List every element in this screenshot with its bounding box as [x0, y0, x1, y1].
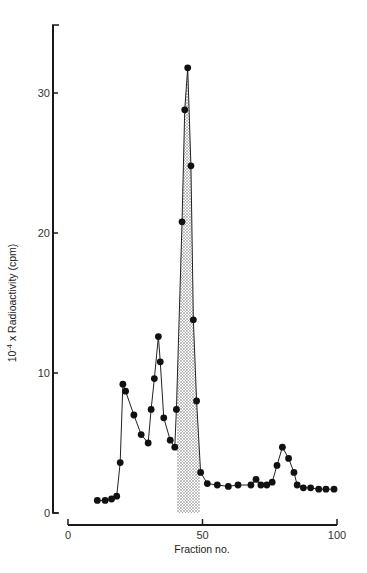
x-tick-label: 50 [196, 529, 208, 541]
data-point [257, 482, 264, 489]
data-point [167, 437, 174, 444]
data-point [190, 316, 197, 323]
data-point [294, 482, 301, 489]
data-point [248, 482, 255, 489]
data-series-radioactivity [94, 64, 338, 503]
x-axis-title: Fraction no. [174, 543, 229, 555]
data-point [274, 462, 281, 469]
data-point [145, 440, 152, 447]
data-point [279, 444, 286, 451]
data-point [160, 414, 167, 421]
data-point [113, 493, 120, 500]
y-tick-label: 0 [44, 507, 50, 519]
data-point [269, 479, 276, 486]
data-point [188, 162, 195, 169]
data-point [253, 476, 260, 483]
data-point [285, 455, 292, 462]
data-point [94, 497, 101, 504]
data-point [291, 469, 298, 476]
data-point [119, 381, 126, 388]
data-point [181, 106, 188, 113]
data-point [122, 388, 129, 395]
y-axis: 0102030 [38, 25, 59, 519]
data-point [173, 406, 180, 413]
data-point [179, 218, 186, 225]
data-point [214, 482, 221, 489]
data-point [155, 333, 162, 340]
data-point [315, 486, 322, 493]
data-point [151, 375, 158, 382]
data-point [307, 484, 314, 491]
data-point [102, 497, 109, 504]
data-point [131, 412, 138, 419]
data-point [157, 358, 164, 365]
y-tick-label: 20 [38, 227, 50, 239]
series-line [97, 68, 334, 501]
data-point [331, 486, 338, 493]
x-tick-label: 100 [328, 529, 346, 541]
x-tick-label: 0 [65, 529, 71, 541]
data-point [235, 482, 242, 489]
data-point [171, 444, 178, 451]
data-point [225, 483, 232, 490]
data-point [197, 469, 204, 476]
y-tick-label: 10 [38, 367, 50, 379]
y-axis-title: 10-4 x Radioactivity (cpm) [5, 244, 18, 363]
chart: 0102030 050100 10-4 x Radioactivity (cpm… [0, 0, 367, 573]
data-point [138, 431, 145, 438]
data-point [184, 64, 191, 71]
x-axis: 050100 [65, 519, 346, 541]
data-point [117, 459, 124, 466]
data-point [193, 398, 200, 405]
data-point [323, 486, 330, 493]
data-point [148, 406, 155, 413]
data-point [300, 484, 307, 491]
data-point [204, 480, 211, 487]
y-tick-label: 30 [38, 87, 50, 99]
